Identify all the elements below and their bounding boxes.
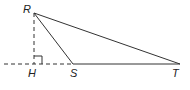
solid-segments xyxy=(34,13,180,64)
label-R: R xyxy=(23,3,31,15)
label-T: T xyxy=(172,67,180,79)
segment-RT xyxy=(34,13,180,64)
triangle-diagram: R H S T xyxy=(0,0,190,90)
label-H: H xyxy=(28,67,36,79)
right-angle-marker xyxy=(34,56,42,64)
label-S: S xyxy=(70,67,78,79)
